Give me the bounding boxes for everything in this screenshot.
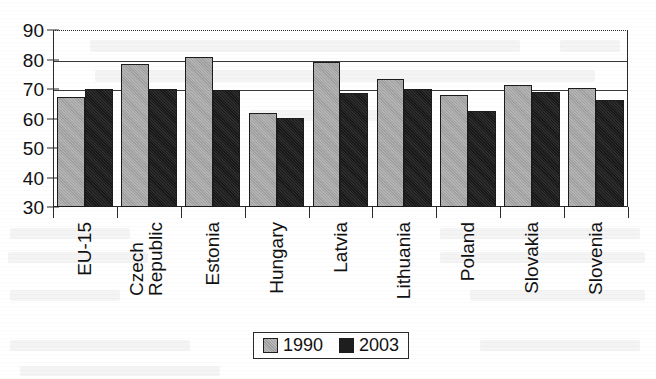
x-axis-label-eu-15: EU-15 bbox=[75, 222, 94, 276]
bar-poland-1990 bbox=[440, 95, 468, 207]
x-axis-label-hungary: Hungary bbox=[267, 222, 286, 294]
bar-latvia-2003 bbox=[340, 93, 368, 207]
x-axis-label-line1: EU-15 bbox=[74, 222, 95, 276]
x-tick bbox=[628, 207, 629, 218]
x-axis-label-slovakia: Slovakia bbox=[522, 222, 541, 294]
black-square-icon bbox=[339, 338, 354, 353]
bar-latvia-1990 bbox=[313, 62, 341, 207]
gray-square-icon bbox=[263, 338, 278, 353]
x-tick bbox=[181, 207, 182, 218]
bar-hungary-2003 bbox=[277, 118, 305, 207]
x-axis-label-line1: Slovenia bbox=[585, 222, 606, 295]
x-axis-label-line1: Hungary bbox=[266, 222, 287, 294]
x-axis-label-line1: Slovakia bbox=[521, 222, 542, 294]
bar-lithuania-2003 bbox=[404, 89, 432, 207]
y-tick-label-80: 80 bbox=[14, 50, 44, 69]
x-tick bbox=[372, 207, 373, 218]
bar-slovakia-1990 bbox=[504, 85, 532, 207]
x-axis-label-slovenia: Slovenia bbox=[586, 222, 605, 295]
bar-lithuania-1990 bbox=[377, 79, 405, 207]
x-tick bbox=[309, 207, 310, 218]
bar-slovenia-2003 bbox=[596, 100, 624, 207]
chart-legend: 1990 2003 bbox=[253, 332, 409, 359]
y-tick-label-60: 60 bbox=[14, 109, 44, 128]
x-axis-label-line1: Estonia bbox=[202, 222, 223, 285]
bar-group bbox=[564, 30, 628, 207]
bar-estonia-1990 bbox=[185, 57, 213, 207]
legend-item-2003: 2003 bbox=[339, 336, 399, 354]
legend-label-1990: 1990 bbox=[283, 336, 323, 354]
bar-chart-figure: 90 80 70 60 50 40 30 EU-15CzechRepublicE… bbox=[0, 0, 656, 379]
x-axis-label-line1: Czech bbox=[126, 242, 147, 296]
bar-group bbox=[500, 30, 564, 207]
legend-item-1990: 1990 bbox=[263, 336, 323, 354]
bar-poland-2003 bbox=[468, 111, 496, 207]
bar-group bbox=[372, 30, 436, 207]
x-axis-label-line2: Republic bbox=[146, 222, 165, 296]
x-tick bbox=[500, 207, 501, 218]
bar-group bbox=[53, 30, 117, 207]
bar-hungary-1990 bbox=[249, 113, 277, 207]
bar-group bbox=[117, 30, 181, 207]
x-tick bbox=[436, 207, 437, 218]
y-tick-label-70: 70 bbox=[14, 80, 44, 99]
bar-group bbox=[436, 30, 500, 207]
bar-slovakia-2003 bbox=[532, 92, 560, 207]
bar-group bbox=[181, 30, 245, 207]
x-axis-label-estonia: Estonia bbox=[203, 222, 222, 285]
bar-czech-republic-1990 bbox=[121, 64, 149, 207]
x-axis-label-latvia: Latvia bbox=[331, 222, 350, 273]
x-tick bbox=[53, 207, 54, 218]
bar-group bbox=[309, 30, 373, 207]
bar-slovenia-1990 bbox=[568, 88, 596, 207]
x-tick bbox=[564, 207, 565, 218]
y-tick-label-90: 90 bbox=[14, 21, 44, 40]
bar-estonia-2003 bbox=[213, 90, 241, 207]
y-tick-label-50: 50 bbox=[14, 139, 44, 158]
bar-czech-republic-2003 bbox=[149, 89, 177, 207]
x-axis-label-line1: Poland bbox=[457, 222, 478, 281]
x-axis-label-line1: Latvia bbox=[330, 222, 351, 273]
x-axis-label-poland: Poland bbox=[458, 222, 477, 281]
y-tick-label-30: 30 bbox=[14, 198, 44, 217]
x-axis-label-line1: Lithuania bbox=[393, 222, 414, 299]
y-tick-label-40: 40 bbox=[14, 168, 44, 187]
bar-eu-15-1990 bbox=[57, 97, 85, 207]
x-tick bbox=[245, 207, 246, 218]
bars-layer bbox=[53, 30, 628, 207]
bar-group bbox=[245, 30, 309, 207]
x-tick bbox=[117, 207, 118, 218]
x-axis-label-czech-republic: CzechRepublic bbox=[127, 222, 166, 296]
bar-eu-15-2003 bbox=[85, 89, 113, 207]
x-axis-label-lithuania: Lithuania bbox=[394, 222, 413, 299]
legend-label-2003: 2003 bbox=[359, 336, 399, 354]
